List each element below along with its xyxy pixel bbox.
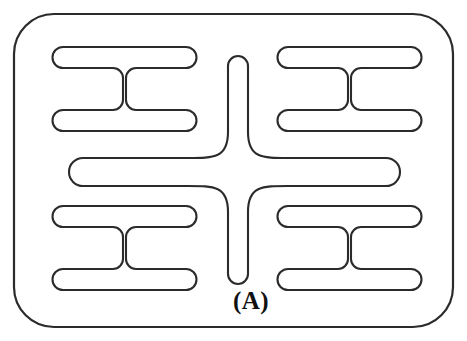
antenna-geometry-diagram: (A) <box>0 0 467 341</box>
figure-caption-label: (A) <box>233 287 269 315</box>
figure-container: (A) <box>0 0 467 341</box>
